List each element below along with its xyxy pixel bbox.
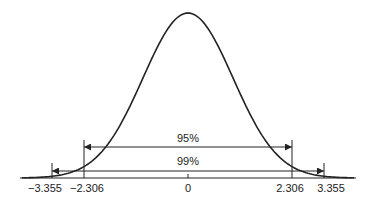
density-curve	[22, 13, 354, 178]
interval-99-label: 99%	[177, 155, 199, 167]
t-distribution-chart: 95% 99% −3.355 −2.306 0 2.306 3.355	[0, 0, 376, 203]
tick-label-zero: 0	[185, 182, 191, 194]
interval-95-label: 95%	[177, 132, 199, 144]
tick-label-pos-3355: 3.355	[317, 182, 345, 194]
tick-label-neg-2306: −2.306	[70, 182, 104, 194]
tick-label-pos-2306: 2.306	[276, 182, 304, 194]
tick-label-neg-3355: −3.355	[28, 182, 62, 194]
